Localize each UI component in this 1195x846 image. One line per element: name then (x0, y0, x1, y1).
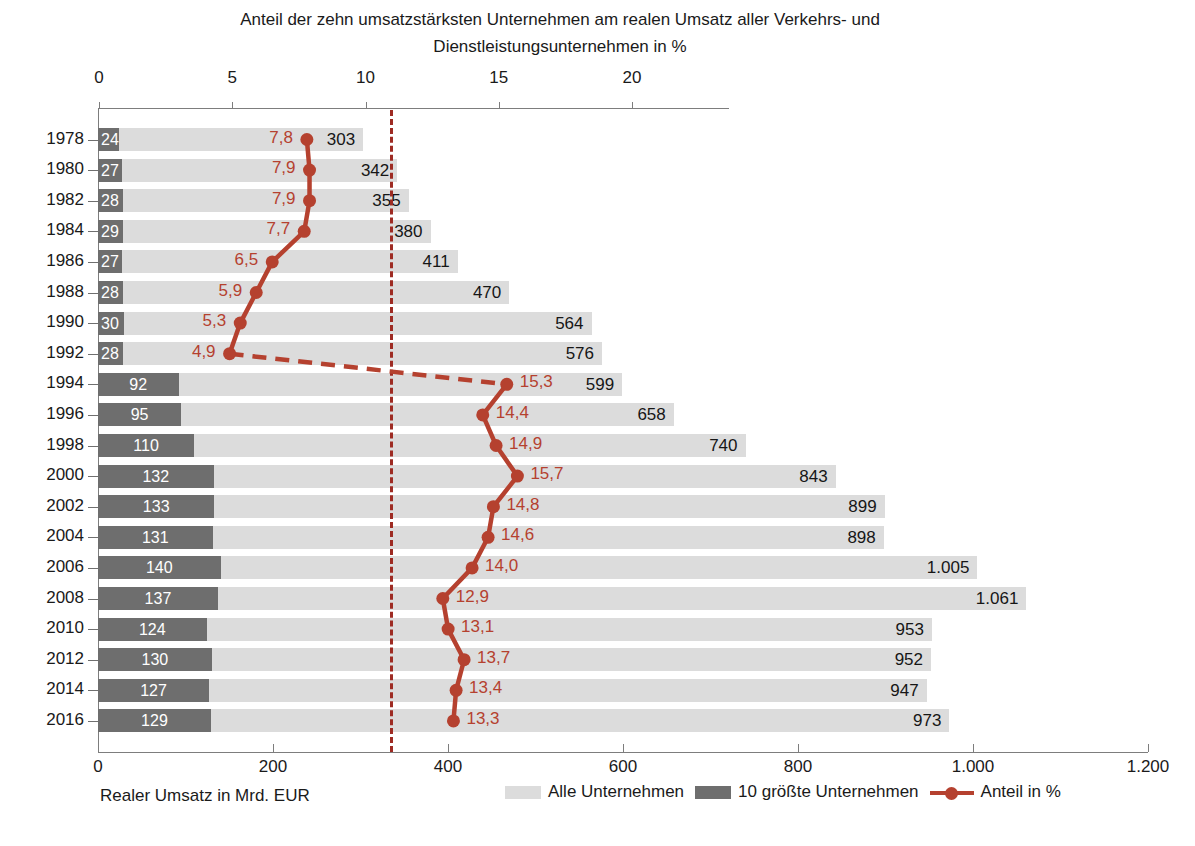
bar-label-alle-2008: 1.061 (976, 589, 1019, 609)
bottom-axis-tick (973, 744, 974, 752)
category-tick (88, 629, 98, 630)
top-axis-tick-label: 10 (356, 68, 375, 88)
bar-all-unternehmen (98, 128, 363, 151)
bar-all-unternehmen (98, 342, 602, 365)
bar-label-alle-1992: 576 (566, 344, 594, 364)
category-tick (88, 323, 98, 324)
bar-label-alle-2010: 953 (896, 620, 924, 640)
bar-label-alle-2014: 947 (890, 681, 918, 701)
category-tick (88, 231, 98, 232)
top-axis-tick-label: 0 (94, 68, 103, 88)
legend-item-alle-unternehmen[interactable]: Alle Unternehmen (505, 782, 684, 802)
bar-label-alle-1980: 342 (361, 161, 389, 181)
bar-label-top10-1986: 27 (101, 253, 119, 271)
bar-label-top10-2004: 131 (142, 529, 169, 547)
share-label-2012: 13,7 (477, 648, 510, 668)
legend-item-10-groesste-unternehmen[interactable]: 10 größte Unternehmen (695, 782, 919, 802)
share-label-1988: 5,9 (219, 281, 243, 301)
share-label-2006: 14,0 (485, 556, 518, 576)
bar-all-unternehmen (98, 679, 927, 702)
bar-all-unternehmen (98, 587, 1026, 610)
category-tick (88, 446, 98, 447)
top-axis-tick (99, 102, 100, 109)
chart-title-line1: Anteil der zehn umsatzstärksten Unterneh… (0, 6, 1120, 33)
category-label-1988: 1988 (0, 282, 84, 302)
share-label-1992: 4,9 (192, 342, 216, 362)
category-label-2008: 2008 (0, 588, 84, 608)
category-label-1994: 1994 (0, 373, 84, 393)
category-tick (88, 599, 98, 600)
top-axis-line (99, 108, 729, 109)
bar-label-alle-1982: 355 (372, 191, 400, 211)
category-label-1982: 1982 (0, 190, 84, 210)
top-axis-tick-label: 5 (228, 68, 237, 88)
category-label-1980: 1980 (0, 159, 84, 179)
bottom-axis-tick (623, 744, 624, 752)
top-axis-tick (632, 102, 633, 109)
share-label-2008: 12,9 (456, 587, 489, 607)
top-axis-tick (366, 102, 367, 109)
chart-title-line2: Dienstleistungsunternehmen in % (0, 33, 1120, 60)
bar-label-alle-1998: 740 (709, 436, 737, 456)
legend-line-marker-icon (930, 786, 974, 799)
bottom-axis-caption: Realer Umsatz in Mrd. EUR (100, 786, 310, 806)
category-tick (88, 293, 98, 294)
bar-label-alle-1988: 470 (473, 283, 501, 303)
category-label-1984: 1984 (0, 220, 84, 240)
bar-label-top10-1994: 92 (129, 376, 147, 394)
bar-label-alle-1990: 564 (555, 314, 583, 334)
bottom-axis-tick-label: 1.000 (952, 757, 995, 777)
category-label-2014: 2014 (0, 679, 84, 699)
category-tick (88, 690, 98, 691)
share-label-1990: 5,3 (203, 311, 227, 331)
bar-label-top10-2000: 132 (142, 468, 169, 486)
top-axis-tick (499, 102, 500, 109)
share-label-1980: 7,9 (272, 158, 296, 178)
category-tick (88, 721, 98, 722)
bar-label-alle-2006: 1.005 (927, 558, 970, 578)
bottom-axis-tick-label: 600 (609, 757, 637, 777)
share-label-1994: 15,3 (520, 372, 553, 392)
bar-label-top10-2012: 130 (142, 651, 169, 669)
bar-label-top10-1998: 110 (133, 437, 159, 455)
category-label-1978: 1978 (0, 129, 84, 149)
category-label-2010: 2010 (0, 618, 84, 638)
category-label-2016: 2016 (0, 710, 84, 730)
category-label-1992: 1992 (0, 343, 84, 363)
share-label-2004: 14,6 (501, 525, 534, 545)
bar-label-top10-1990: 30 (101, 315, 119, 333)
bar-label-top10-1996: 95 (131, 406, 149, 424)
category-tick (88, 170, 98, 171)
bar-label-alle-2004: 898 (847, 528, 875, 548)
bottom-axis-line (98, 752, 1148, 753)
category-label-2012: 2012 (0, 649, 84, 669)
bar-label-top10-1992: 28 (101, 345, 119, 363)
category-tick (88, 568, 98, 569)
bar-label-top10-1978: 24 (101, 131, 119, 149)
legend-label-anteil-in-prozent: Anteil in % (981, 782, 1061, 802)
bottom-axis-tick-label: 1.200 (1127, 757, 1170, 777)
category-tick (88, 140, 98, 141)
category-tick (88, 476, 98, 477)
reference-line (390, 110, 393, 752)
legend-item-anteil-in-prozent[interactable]: Anteil in % (930, 782, 1061, 802)
bar-all-unternehmen (98, 403, 674, 426)
share-label-2014: 13,4 (469, 678, 502, 698)
top-axis-tick (232, 102, 233, 109)
bar-label-top10-1984: 29 (101, 223, 119, 241)
bar-all-unternehmen (98, 312, 592, 335)
share-label-1998: 14,9 (509, 434, 542, 454)
bar-all-unternehmen (98, 159, 397, 182)
category-tick (88, 354, 98, 355)
share-label-2010: 13,1 (461, 617, 494, 637)
bar-all-unternehmen (98, 281, 509, 304)
bar-label-alle-1984: 380 (394, 222, 422, 242)
bar-all-unternehmen (98, 495, 885, 518)
bar-all-unternehmen (98, 556, 977, 579)
bar-all-unternehmen (98, 189, 409, 212)
bottom-axis-tick-label: 800 (784, 757, 812, 777)
legend-label-alle-unternehmen: Alle Unternehmen (548, 782, 684, 802)
bottom-axis-tick-label: 0 (93, 757, 102, 777)
bar-label-top10-2002: 133 (143, 498, 170, 516)
category-label-1998: 1998 (0, 435, 84, 455)
